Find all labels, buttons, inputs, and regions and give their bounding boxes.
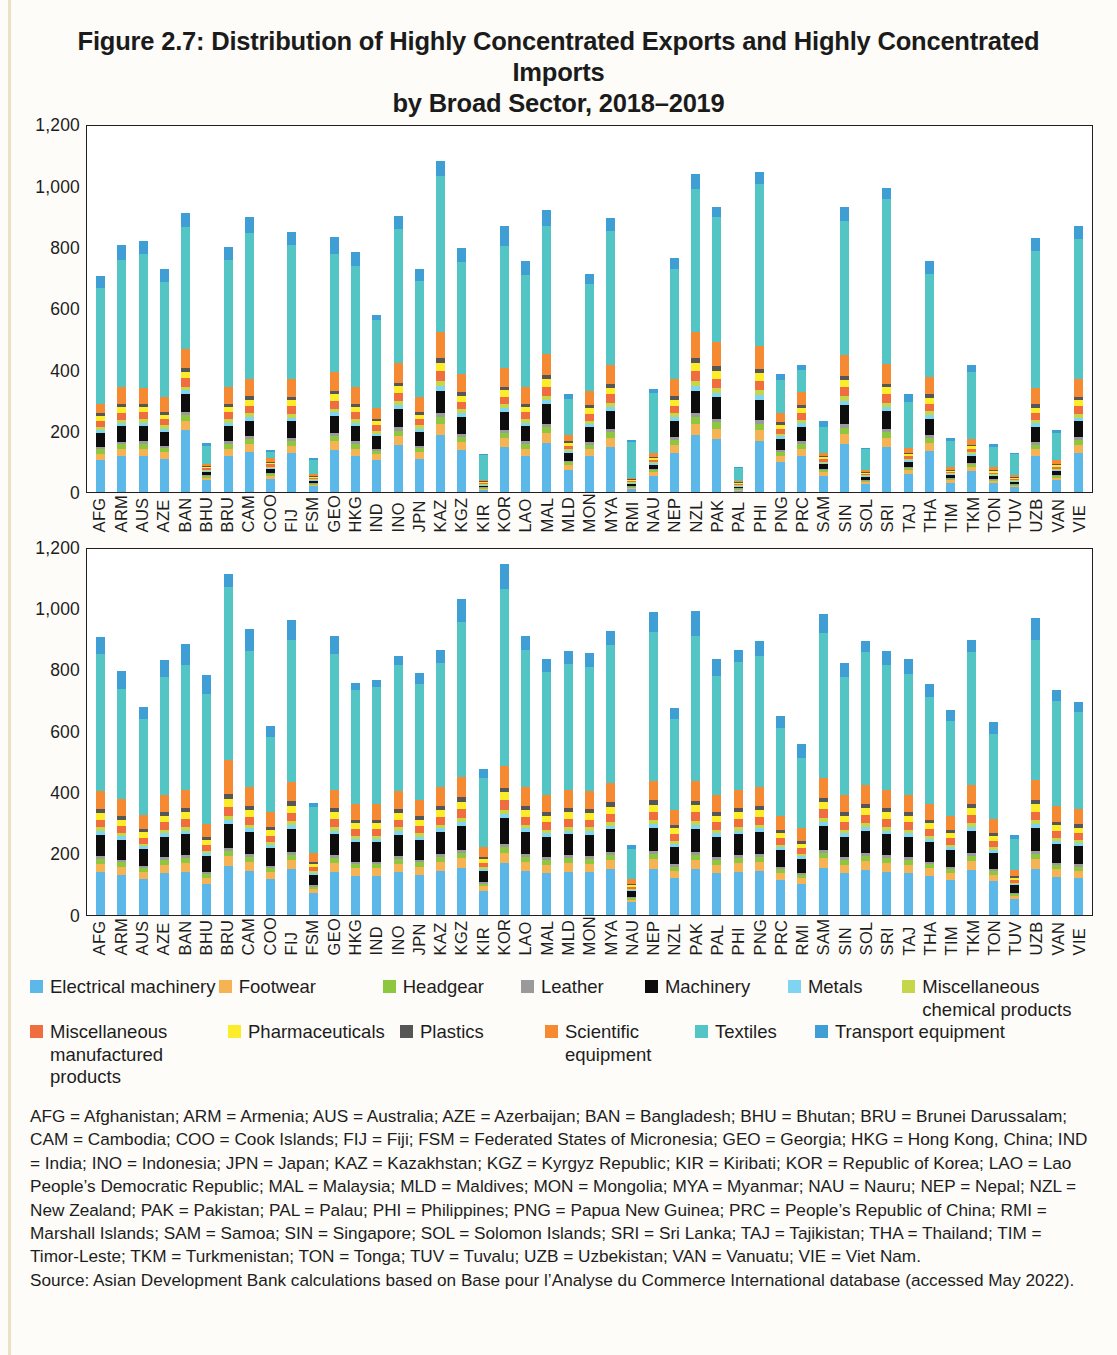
stacked-bar[interactable] [309, 803, 318, 915]
stacked-bar[interactable] [925, 684, 934, 915]
stacked-bar[interactable] [755, 172, 764, 493]
stacked-bar[interactable] [734, 467, 743, 492]
stacked-bar[interactable] [500, 564, 509, 914]
stacked-bar[interactable] [564, 651, 573, 915]
stacked-bar[interactable] [542, 210, 551, 493]
stacked-bar[interactable] [1010, 835, 1019, 915]
stacked-bar[interactable] [691, 611, 700, 915]
stacked-bar[interactable] [351, 252, 360, 493]
stacked-bar[interactable] [1031, 238, 1040, 492]
stacked-bar[interactable] [266, 450, 275, 493]
legend-item-misc_chemical[interactable]: Miscellaneous chemical products [902, 976, 1093, 1021]
stacked-bar[interactable] [776, 716, 785, 915]
stacked-bar[interactable] [797, 365, 806, 493]
stacked-bar[interactable] [989, 444, 998, 492]
stacked-bar[interactable] [627, 845, 636, 915]
stacked-bar[interactable] [521, 636, 530, 915]
stacked-bar[interactable] [309, 458, 318, 492]
stacked-bar[interactable] [627, 440, 636, 493]
stacked-bar[interactable] [1074, 702, 1083, 915]
stacked-bar[interactable] [330, 636, 339, 914]
stacked-bar[interactable] [181, 213, 190, 492]
stacked-bar[interactable] [712, 207, 721, 493]
stacked-bar[interactable] [882, 651, 891, 915]
stacked-bar[interactable] [542, 659, 551, 915]
stacked-bar[interactable] [224, 247, 233, 492]
stacked-bar[interactable] [117, 245, 126, 492]
stacked-bar[interactable] [946, 438, 955, 492]
legend-item-leather[interactable]: Leather [521, 976, 645, 999]
stacked-bar[interactable] [649, 612, 658, 915]
stacked-bar[interactable] [819, 421, 828, 492]
stacked-bar[interactable] [479, 769, 488, 914]
stacked-bar[interactable] [989, 722, 998, 915]
stacked-bar[interactable] [946, 710, 955, 914]
stacked-bar[interactable] [904, 659, 913, 914]
stacked-bar[interactable] [967, 640, 976, 914]
stacked-bar[interactable] [224, 574, 233, 915]
legend-item-footwear[interactable]: Footwear [219, 976, 383, 999]
stacked-bar[interactable] [500, 226, 509, 493]
stacked-bar[interactable] [840, 663, 849, 915]
stacked-bar[interactable] [649, 389, 658, 492]
stacked-bar[interactable] [457, 248, 466, 492]
legend-item-electrical_machinery[interactable]: Electrical machinery [30, 976, 219, 999]
legend-item-metals[interactable]: Metals [788, 976, 902, 999]
stacked-bar[interactable] [139, 707, 148, 914]
stacked-bar[interactable] [840, 207, 849, 492]
stacked-bar[interactable] [967, 365, 976, 493]
stacked-bar[interactable] [819, 614, 828, 915]
stacked-bar[interactable] [372, 680, 381, 915]
stacked-bar[interactable] [585, 653, 594, 915]
stacked-bar[interactable] [585, 274, 594, 492]
stacked-bar[interactable] [457, 599, 466, 915]
stacked-bar[interactable] [1074, 226, 1083, 492]
stacked-bar[interactable] [755, 641, 764, 915]
legend-item-headgear[interactable]: Headgear [383, 976, 521, 999]
legend-item-scientific_equipment[interactable]: Scientific equipment [545, 1021, 695, 1066]
stacked-bar[interactable] [202, 675, 211, 915]
stacked-bar[interactable] [479, 454, 488, 493]
legend-item-textiles[interactable]: Textiles [695, 1021, 815, 1044]
stacked-bar[interactable] [330, 237, 339, 492]
stacked-bar[interactable] [564, 394, 573, 493]
legend-item-misc_manufactured[interactable]: Miscellaneous manufactured products [30, 1021, 228, 1089]
stacked-bar[interactable] [1031, 618, 1040, 914]
stacked-bar[interactable] [712, 659, 721, 914]
stacked-bar[interactable] [904, 394, 913, 493]
stacked-bar[interactable] [139, 241, 148, 493]
stacked-bar[interactable] [925, 261, 934, 493]
stacked-bar[interactable] [776, 374, 785, 493]
stacked-bar[interactable] [606, 218, 615, 492]
stacked-bar[interactable] [181, 644, 190, 915]
stacked-bar[interactable] [96, 637, 105, 914]
stacked-bar[interactable] [96, 276, 105, 492]
stacked-bar[interactable] [287, 620, 296, 914]
stacked-bar[interactable] [415, 269, 424, 492]
stacked-bar[interactable] [1052, 690, 1061, 914]
stacked-bar[interactable] [691, 174, 700, 493]
stacked-bar[interactable] [160, 660, 169, 915]
stacked-bar[interactable] [160, 269, 169, 492]
legend-item-machinery[interactable]: Machinery [645, 976, 788, 999]
stacked-bar[interactable] [861, 641, 870, 915]
stacked-bar[interactable] [394, 656, 403, 915]
stacked-bar[interactable] [861, 448, 870, 492]
stacked-bar[interactable] [1052, 430, 1061, 493]
stacked-bar[interactable] [372, 315, 381, 493]
stacked-bar[interactable] [436, 650, 445, 915]
stacked-bar[interactable] [266, 726, 275, 915]
stacked-bar[interactable] [882, 188, 891, 492]
stacked-bar[interactable] [394, 216, 403, 492]
stacked-bar[interactable] [734, 650, 743, 915]
stacked-bar[interactable] [670, 708, 679, 915]
legend-item-pharmaceuticals[interactable]: Pharmaceuticals [228, 1021, 400, 1044]
stacked-bar[interactable] [117, 671, 126, 914]
stacked-bar[interactable] [245, 629, 254, 915]
stacked-bar[interactable] [606, 631, 615, 914]
stacked-bar[interactable] [245, 217, 254, 492]
stacked-bar[interactable] [797, 744, 806, 914]
stacked-bar[interactable] [521, 261, 530, 493]
stacked-bar[interactable] [351, 683, 360, 915]
legend-item-transport_equipment[interactable]: Transport equipment [815, 1021, 1015, 1044]
